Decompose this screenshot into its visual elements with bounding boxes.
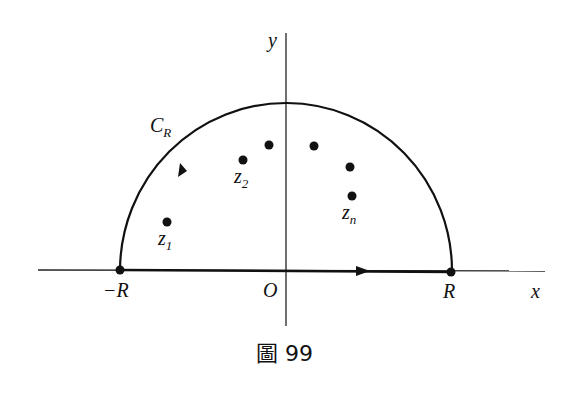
figure-caption: 圖 99 [256,341,313,366]
minus-r-label: −R [103,279,129,301]
point-zn [348,192,357,201]
endpoint-minus-r [116,266,125,275]
origin-label: O [263,279,277,301]
arrow-icon [178,163,187,177]
contour-label: CR [150,114,171,140]
point [265,141,274,150]
zn-label: zn [341,201,356,227]
x-axis-label: x [530,280,540,302]
z2-label: z2 [233,165,249,191]
point-z2 [239,156,248,165]
point [346,163,355,172]
y-axis-label: y [266,29,277,52]
r-label: R [442,280,455,302]
contour-diagram: y x O −R R CR z1 z2 zn 圖 99 [0,0,578,406]
point [310,142,319,151]
z1-label: z1 [157,227,172,253]
point-z1 [163,218,172,227]
endpoint-r [447,268,456,277]
arrow-icon [356,266,370,276]
